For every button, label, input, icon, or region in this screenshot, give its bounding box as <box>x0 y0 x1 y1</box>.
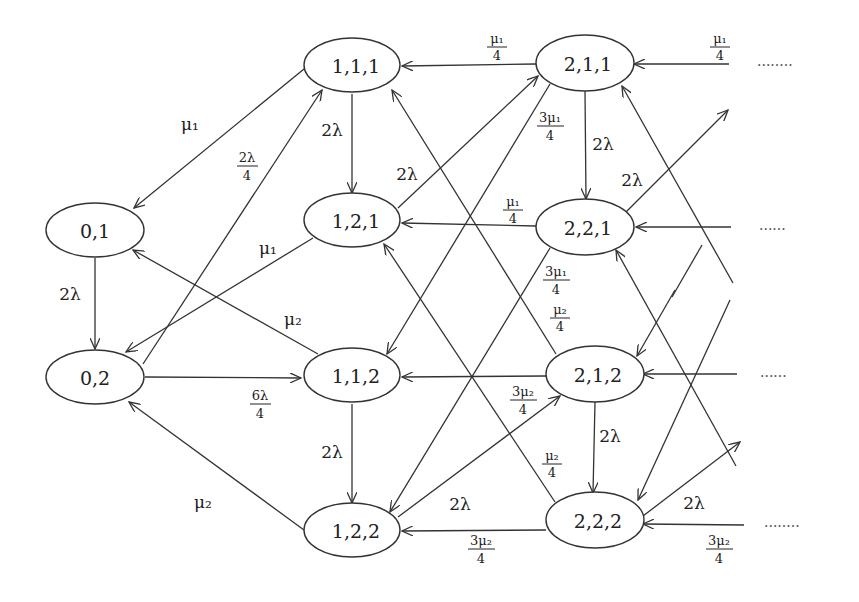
svg-text:4: 4 <box>256 406 264 421</box>
svg-text:2,1,1: 2,1,1 <box>564 53 612 75</box>
svg-text:μ₁: μ₁ <box>713 31 727 46</box>
svg-text:4: 4 <box>519 402 527 417</box>
label-3mu2-over-4-222-122: 3μ₂ 4 <box>468 533 495 566</box>
state-1-1-2: 1,1,2 <box>304 348 400 402</box>
label-2lambda-211-221: 2λ <box>592 134 614 154</box>
svg-text:4: 4 <box>493 48 501 63</box>
edge-221-to-more <box>626 110 728 212</box>
label-3mu1-over-4-221-122: 3μ₁ 4 <box>543 264 570 297</box>
edge-122-to-02 <box>129 402 304 530</box>
svg-text:3μ₁: 3μ₁ <box>545 264 567 279</box>
svg-text:6λ: 6λ <box>252 388 269 403</box>
svg-text:1,1,1: 1,1,1 <box>332 55 380 77</box>
edge-211-to-111 <box>402 64 536 66</box>
state-2-1-2: 2,1,2 <box>546 346 644 402</box>
label-2lambda-221-more: 2λ <box>621 170 643 190</box>
state-2-2-1: 2,2,1 <box>536 199 634 255</box>
svg-text:2,1,2: 2,1,2 <box>574 364 622 386</box>
svg-text:0,1: 0,1 <box>80 220 110 242</box>
label-2lambda-112-122: 2λ <box>321 442 343 462</box>
edge-211-to-112 <box>387 84 550 354</box>
label-mu1-111-01: μ₁ <box>181 114 199 134</box>
label-2lambda-122-212: 2λ <box>449 494 471 514</box>
state-transition-diagram: μ₁ 2λ 2λ 4 2λ 2λ μ₁ μ₂ 6λ 4 2λ μ₂ μ₁ 4 3… <box>0 0 859 602</box>
svg-text:3μ₂: 3μ₂ <box>470 533 492 548</box>
label-2lambda-over-4: 2λ 4 <box>237 150 258 183</box>
edge-222-to-122 <box>402 530 546 531</box>
svg-text:4: 4 <box>546 128 554 143</box>
label-3mu1-over-4-211-112: 3μ₁ 4 <box>537 110 564 143</box>
state-2-1-1: 2,1,1 <box>536 35 634 91</box>
svg-text:2,2,2: 2,2,2 <box>574 510 622 532</box>
svg-text:3μ₂: 3μ₂ <box>708 533 730 548</box>
svg-text:4: 4 <box>715 551 723 566</box>
label-3mu2-over-4-122-212: 3μ₂ 4 <box>510 384 537 417</box>
state-0-2: 0,2 <box>46 350 144 404</box>
svg-text:μ₂: μ₂ <box>545 448 559 463</box>
label-6lambda-over-4: 6λ 4 <box>250 388 271 421</box>
svg-text:3μ₂: 3μ₂ <box>512 384 534 399</box>
label-mu1-121-02: μ₁ <box>259 238 277 258</box>
svg-text:4: 4 <box>509 211 517 226</box>
edge-labels: μ₁ 2λ 2λ 4 2λ 2λ μ₁ μ₂ 6λ 4 2λ μ₂ μ₁ 4 3… <box>59 31 799 566</box>
state-0-1: 0,1 <box>46 203 144 257</box>
label-mu2-over-4-212-111: μ₂ 4 <box>550 302 570 334</box>
label-2lambda-121-211: 2λ <box>396 164 418 184</box>
state-1-1-1: 1,1,1 <box>304 38 400 92</box>
svg-text:4: 4 <box>556 319 564 334</box>
label-mu2-122-02: μ₂ <box>194 492 212 512</box>
label-3mu2-over-4-more-222: 3μ₂ 4 <box>706 533 733 566</box>
label-2lambda-212-222: 2λ <box>599 426 621 446</box>
svg-text:0,2: 0,2 <box>80 367 110 389</box>
edge-112-to-01 <box>133 250 318 354</box>
label-mu1-over-4-221-121: μ₁ 4 <box>503 194 523 226</box>
label-2lambda-01-02: 2λ <box>59 284 81 304</box>
ellipsis-row-212: ...... <box>760 364 787 380</box>
svg-text:1,2,2: 1,2,2 <box>332 520 380 542</box>
svg-text:4: 4 <box>477 551 485 566</box>
state-1-2-1: 1,2,1 <box>304 193 400 247</box>
edge-02-to-112 <box>145 377 301 378</box>
edge-121-to-211 <box>398 76 538 208</box>
ellipsis-row-221: ...... <box>759 217 786 233</box>
edge-212-to-112 <box>402 376 546 377</box>
edge-more-to-222 <box>643 524 744 525</box>
edges <box>95 64 744 531</box>
edge-212-to-222 <box>593 402 595 493</box>
label-mu2-112-01: μ₂ <box>284 309 302 329</box>
svg-text:μ₁: μ₁ <box>506 194 520 209</box>
label-2lambda-111-121: 2λ <box>321 120 343 140</box>
ellipsis-row-222: ........ <box>764 514 800 530</box>
svg-text:μ₁: μ₁ <box>490 31 504 46</box>
svg-text:2,2,1: 2,2,1 <box>564 217 612 239</box>
label-mu2-over-4-222-121: μ₂ 4 <box>542 448 562 480</box>
state-2-2-2: 2,2,2 <box>546 492 644 548</box>
label-mu1-over-4-more-211: μ₁ 4 <box>710 31 730 63</box>
edge-111-to-01 <box>134 69 304 208</box>
edge-221-to-122 <box>390 248 550 512</box>
edge-212-to-111 <box>392 90 556 354</box>
edge-122-to-212 <box>398 396 560 517</box>
svg-text:1,1,2: 1,1,2 <box>332 365 380 387</box>
svg-text:4: 4 <box>552 282 560 297</box>
svg-text:1,2,1: 1,2,1 <box>332 210 380 232</box>
state-1-2-2: 1,2,2 <box>304 503 400 557</box>
svg-text:4: 4 <box>243 168 251 183</box>
label-2lambda-222-more: 2λ <box>683 493 705 513</box>
svg-text:2λ: 2λ <box>239 150 256 165</box>
label-mu1-over-4-211-111: μ₁ 4 <box>487 31 507 63</box>
edge-more-to-212-diag-tail <box>672 245 702 297</box>
svg-text:4: 4 <box>548 465 556 480</box>
svg-text:4: 4 <box>716 48 724 63</box>
svg-text:μ₂: μ₂ <box>553 302 567 317</box>
svg-text:3μ₁: 3μ₁ <box>539 110 561 125</box>
edge-211-to-221 <box>585 91 586 199</box>
ellipsis-row-211: ........ <box>757 53 793 69</box>
